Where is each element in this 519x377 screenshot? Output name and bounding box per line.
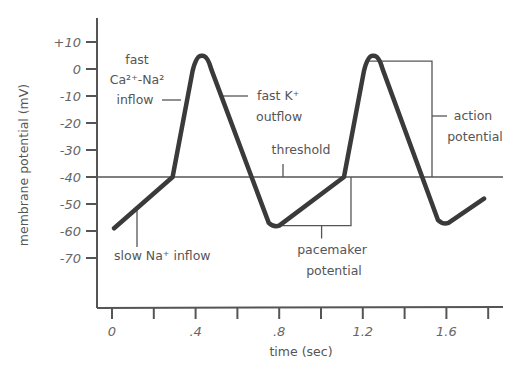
- fast-ca-na-inflow-label: fast Ca²⁺-Na² inflow: [110, 52, 169, 107]
- x-tick-label: .8: [273, 324, 285, 339]
- pacemaker-potential-label: pacemaker potential: [297, 242, 371, 278]
- pacemaker-potential-chart: membrane potential (mV) time (sec) +100-…: [0, 0, 519, 377]
- x-axis-label: time (sec): [269, 344, 332, 359]
- y-tick-label: 0: [73, 62, 81, 77]
- annotation-line: Ca²⁺-Na²: [110, 72, 165, 87]
- action-potential-label: action potential: [447, 108, 503, 144]
- y-ticks: +100-10-20-30-40-50-60-70: [54, 35, 97, 266]
- annotation-line: inflow: [116, 92, 153, 107]
- pacemaker-potential-bracket: [279, 177, 351, 239]
- y-tick-label: -60: [60, 224, 81, 239]
- x-tick-label: 1.2: [352, 324, 373, 339]
- y-tick-label: -10: [60, 89, 81, 104]
- y-tick-label: +10: [54, 35, 81, 50]
- threshold-label: threshold: [272, 142, 331, 157]
- x-ticks: 0.4.81.21.6: [108, 308, 488, 339]
- annotation-line: slow Na⁺ inflow: [114, 248, 211, 263]
- x-tick-label: .4: [189, 324, 201, 339]
- annotation-line: outflow: [256, 109, 302, 124]
- annotation-line: fast: [125, 52, 149, 67]
- x-tick-label: 1.6: [436, 324, 457, 339]
- y-tick-label: -30: [60, 143, 81, 158]
- x-tick-label: 0: [108, 324, 116, 339]
- y-axis-label: membrane potential (mV): [16, 84, 31, 246]
- x-axis: [97, 307, 503, 308]
- annotation-line: potential: [447, 129, 503, 144]
- fast-k-outflow-label: fast K⁺ outflow: [256, 88, 303, 124]
- y-tick-label: -50: [60, 197, 81, 212]
- slow-na-inflow-label: slow Na⁺ inflow: [114, 248, 211, 263]
- annotation-line: action: [454, 108, 492, 123]
- y-tick-label: -40: [60, 170, 81, 185]
- annotation-line: fast K⁺: [257, 88, 299, 103]
- annotation-line: pacemaker: [297, 242, 367, 257]
- annotation-line: potential: [306, 263, 362, 278]
- y-tick-label: -70: [60, 251, 81, 266]
- y-tick-label: -20: [60, 116, 81, 131]
